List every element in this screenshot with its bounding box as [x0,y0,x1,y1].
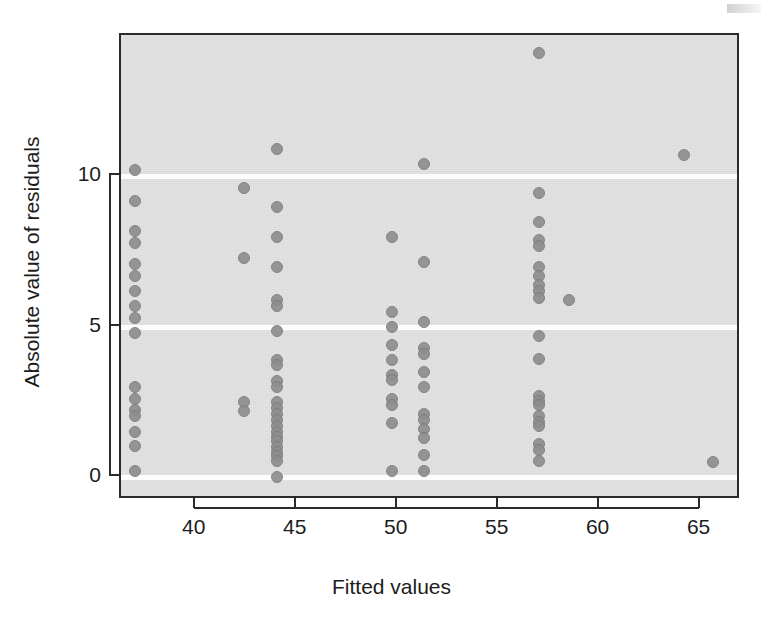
data-point [386,417,398,429]
data-point [271,231,283,243]
data-point [386,374,398,386]
data-point [129,300,141,312]
data-point [271,455,283,467]
data-point [271,381,283,393]
data-point [129,426,141,438]
data-point [271,471,283,483]
data-point [129,327,141,339]
data-point [129,258,141,270]
data-point [271,143,283,155]
data-point [533,292,545,304]
data-point [418,449,430,461]
data-point [533,47,545,59]
data-point [533,187,545,199]
data-point [271,300,283,312]
data-point [129,285,141,297]
data-point [271,201,283,213]
data-point [707,456,719,468]
data-point [271,325,283,337]
data-point [129,440,141,452]
data-point [386,465,398,477]
x-tick-label-40: 40 [182,515,205,539]
data-point [386,354,398,366]
data-point [418,158,430,170]
data-point [129,410,141,422]
data-point [271,261,283,273]
x-axis-title: Fitted values [0,575,783,599]
x-tick-label-60: 60 [586,515,609,539]
data-point [129,195,141,207]
y-axis-spine [109,174,111,475]
scatter-plot-figure: 404550556065 0510 Fitted values Absolute… [0,0,783,625]
data-point [533,420,545,432]
data-point [533,455,545,467]
data-point [386,339,398,351]
data-point [418,432,430,444]
data-point [386,321,398,333]
data-point [418,256,430,268]
gridline-y-0 [121,475,737,480]
data-point [386,306,398,318]
y-tick-label-10: 10 [57,162,101,186]
data-point [271,359,283,371]
data-point [129,381,141,393]
x-tick-label-45: 45 [283,515,306,539]
data-point [238,252,250,264]
x-tick-label-50: 50 [384,515,407,539]
data-point [129,225,141,237]
data-point [418,366,430,378]
data-point [533,216,545,228]
data-point [533,330,545,342]
data-point [386,399,398,411]
x-tick-label-65: 65 [687,515,710,539]
scan-corner-mark [727,4,761,13]
data-point [533,353,545,365]
gridline-y-5 [121,325,737,330]
data-point [129,237,141,249]
x-tick-label-55: 55 [485,515,508,539]
data-point [563,294,575,306]
data-point [418,381,430,393]
x-axis-spine [194,507,699,509]
data-point [678,149,690,161]
data-point [533,240,545,252]
data-point [238,405,250,417]
y-axis-title: Absolute value of residuals [20,62,44,462]
data-point [129,270,141,282]
data-point [386,231,398,243]
data-point [418,348,430,360]
plot-panel [119,33,739,498]
y-tick-label-0: 0 [57,463,101,487]
gridline-y-10 [121,174,737,179]
data-point [238,182,250,194]
y-tick-label-5: 5 [57,313,101,337]
data-point [129,312,141,324]
